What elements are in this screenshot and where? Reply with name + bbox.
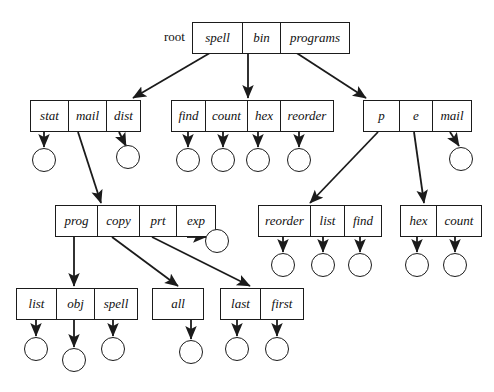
nil-pointer-nil-hex1 xyxy=(246,148,270,172)
node-bin-dir[interactable]: findcounthexreorder xyxy=(171,100,334,132)
node-prt-dir[interactable]: lastfirst xyxy=(220,288,304,320)
cell-programs-dir-mail[interactable]: mail xyxy=(433,101,471,131)
cell-prt-dir-first[interactable]: first xyxy=(261,289,303,319)
node-p-dir[interactable]: reorderlistfind xyxy=(258,205,382,237)
edge-programs-dir-mail-to-nil-mail2 xyxy=(450,132,459,146)
cell-bin-dir-reorder[interactable]: reorder xyxy=(281,101,333,131)
edge-programs-dir-e-to-e-dir xyxy=(414,132,424,203)
node-e-dir[interactable]: hexcount xyxy=(400,205,482,237)
nil-pointer-nil-first xyxy=(265,337,289,361)
nil-pointer-nil-find1 xyxy=(176,148,200,172)
nil-pointer-nil-count1 xyxy=(211,148,235,172)
edge-spell-dir-dist-to-nil-dist xyxy=(119,132,126,146)
cell-p-dir-list[interactable]: list xyxy=(311,206,345,236)
edge-root-programs-to-programs-dir xyxy=(292,50,366,98)
cell-mail-dir-prt[interactable]: prt xyxy=(140,206,177,236)
node-programs-dir[interactable]: pemail xyxy=(363,100,472,132)
nil-pointer-nil-find2 xyxy=(348,253,372,277)
diagram-canvas: root spellbinprogramsstatmaildistfindcou… xyxy=(0,0,494,392)
nil-pointer-nil-last xyxy=(225,337,249,361)
edge-layer xyxy=(0,0,494,392)
cell-mail-dir-copy[interactable]: copy xyxy=(98,206,140,236)
cell-bin-dir-find[interactable]: find xyxy=(172,101,206,131)
cell-e-dir-count[interactable]: count xyxy=(437,206,481,236)
nil-pointer-nil-reorder1 xyxy=(287,148,311,172)
cell-bin-dir-hex[interactable]: hex xyxy=(248,101,281,131)
cell-bin-dir-count[interactable]: count xyxy=(206,101,248,131)
cell-e-dir-hex[interactable]: hex xyxy=(401,206,437,236)
edge-root-spell-to-spell-dir xyxy=(133,50,215,98)
node-root[interactable]: spellbinprograms xyxy=(192,22,350,54)
nil-pointer-nil-hex2 xyxy=(405,253,429,277)
nil-pointer-nil-reorder2 xyxy=(271,253,295,277)
node-prog-dir[interactable]: listobjspell xyxy=(16,288,138,320)
cell-spell-dir-dist[interactable]: dist xyxy=(107,101,140,131)
nil-pointer-nil-exp xyxy=(205,229,229,253)
cell-spell-dir-mail[interactable]: mail xyxy=(69,101,107,131)
nil-pointer-nil-count2 xyxy=(443,253,467,277)
edge-programs-dir-p-to-p-dir xyxy=(310,132,378,203)
cell-prog-dir-spell[interactable]: spell xyxy=(95,289,137,319)
nil-pointer-nil-spell2 xyxy=(101,337,125,361)
nil-pointer-nil-mail2 xyxy=(449,147,473,171)
cell-p-dir-reorder[interactable]: reorder xyxy=(259,206,311,236)
nil-pointer-nil-dist xyxy=(116,145,140,169)
cell-p-dir-find[interactable]: find xyxy=(345,206,381,236)
edge-spell-dir-mail-to-mail-dir xyxy=(78,132,101,203)
cell-prt-dir-last[interactable]: last xyxy=(221,289,261,319)
cell-prog-dir-list[interactable]: list xyxy=(17,289,57,319)
cell-root-spell[interactable]: spell xyxy=(193,23,243,53)
cell-root-programs[interactable]: programs xyxy=(281,23,349,53)
nil-pointer-nil-all xyxy=(179,340,203,364)
cell-root-bin[interactable]: bin xyxy=(243,23,281,53)
cell-programs-dir-p[interactable]: p xyxy=(364,101,400,131)
nil-pointer-nil-stat xyxy=(32,148,56,172)
cell-copy-dir-all[interactable]: all xyxy=(153,289,203,319)
cell-mail-dir-prog[interactable]: prog xyxy=(56,206,98,236)
cell-spell-dir-stat[interactable]: stat xyxy=(31,101,69,131)
root-label: root xyxy=(164,29,185,45)
node-mail-dir[interactable]: progcopyprtexp xyxy=(55,205,216,237)
nil-pointer-nil-list2 xyxy=(311,253,335,277)
node-spell-dir[interactable]: statmaildist xyxy=(30,100,141,132)
cell-programs-dir-e[interactable]: e xyxy=(400,101,433,131)
nil-pointer-nil-obj xyxy=(62,348,86,372)
cell-prog-dir-obj[interactable]: obj xyxy=(57,289,95,319)
nil-pointer-nil-list3 xyxy=(24,337,48,361)
node-copy-dir[interactable]: all xyxy=(152,288,204,320)
